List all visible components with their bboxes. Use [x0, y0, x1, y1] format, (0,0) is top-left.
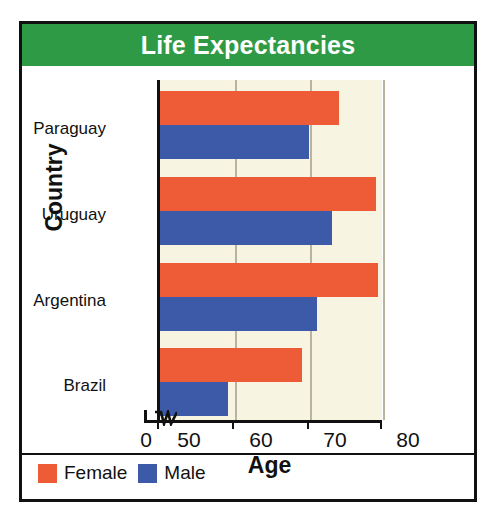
y-tick-label-brazil: Brazil — [63, 376, 106, 396]
chart-legend: Female Male — [38, 462, 206, 484]
legend-divider — [22, 453, 474, 455]
legend-item-male: Male — [138, 462, 205, 484]
x-tick-label-0: 0 — [140, 428, 152, 452]
x-tick-label-60: 60 — [249, 428, 272, 452]
x-tick-0 — [144, 410, 147, 423]
chart-figure: Life Expectancies 0 50 60 70 80 Paraguay… — [19, 21, 477, 502]
legend-item-female: Female — [38, 462, 127, 484]
bar-uruguay-male — [160, 211, 332, 245]
legend-label-male: Male — [164, 462, 205, 484]
bar-brazil-female — [160, 348, 302, 382]
y-tick-label-argentina: Argentina — [33, 291, 106, 311]
gridline-80 — [383, 80, 385, 420]
x-tick-60 — [232, 420, 234, 429]
bar-paraguay-female — [160, 91, 339, 125]
gridline-70 — [310, 80, 312, 420]
legend-swatch-female — [38, 464, 57, 483]
bar-argentina-male — [160, 297, 317, 331]
x-tick-label-80: 80 — [396, 428, 419, 452]
chart-title: Life Expectancies — [141, 31, 356, 60]
x-tick-label-70: 70 — [323, 428, 346, 452]
plot-area — [157, 80, 382, 420]
x-tick-50 — [157, 420, 159, 429]
bar-argentina-female — [160, 263, 378, 297]
bar-uruguay-female — [160, 177, 376, 211]
x-tick-80 — [380, 420, 382, 429]
y-axis-title: Country — [41, 118, 68, 258]
x-tick-70 — [307, 420, 309, 429]
legend-label-female: Female — [64, 462, 127, 484]
x-axis-baseline — [157, 420, 382, 423]
bar-paraguay-male — [160, 125, 309, 159]
chart-title-banner: Life Expectancies — [22, 24, 474, 66]
legend-swatch-male — [138, 464, 157, 483]
x-tick-label-50: 50 — [177, 428, 200, 452]
